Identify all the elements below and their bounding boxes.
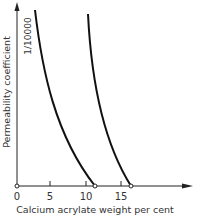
- x-tick-label: 0: [14, 191, 20, 202]
- y-axis-title: Permeability coefficient: [1, 36, 12, 148]
- x-tick-label: 5: [47, 191, 53, 202]
- x-tick-label: 15: [115, 191, 128, 202]
- scale-annotation: 1/10000: [23, 17, 33, 55]
- curve-1: [35, 10, 95, 186]
- curve-2-endpoint-marker: [129, 184, 133, 188]
- x-tick-labels: 0 5 10 15: [14, 191, 128, 202]
- y-axis-arrow-icon: [15, 2, 20, 11]
- x-axis-arrow-icon: [182, 184, 193, 189]
- x-axis-title: Calcium acrylate weight per cent: [16, 204, 174, 215]
- x-tick-label: 10: [80, 191, 93, 202]
- x-ticks: [50, 181, 121, 186]
- curve-2: [88, 14, 131, 186]
- curve-1-endpoint-marker: [93, 184, 97, 188]
- origin-marker: [15, 184, 19, 188]
- permeability-chart: 0 5 10 15 Calcium acrylate weight per ce…: [0, 0, 197, 215]
